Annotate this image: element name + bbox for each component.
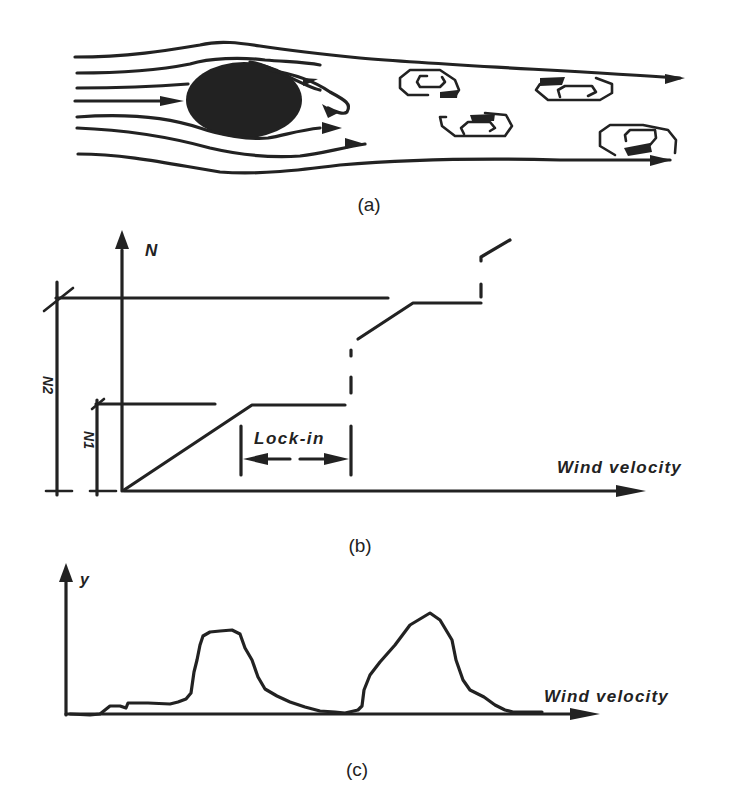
- n-axis-arrow-icon: [115, 230, 129, 249]
- arrow-head-icon: [665, 74, 685, 84]
- vortex-3: [536, 77, 612, 100]
- vortex-2: [440, 113, 512, 136]
- y-axis-label: y: [79, 571, 90, 588]
- lock-in-arrow-left-icon: [243, 453, 268, 465]
- wind-velocity-axis-label: Wind velocity: [557, 458, 682, 477]
- arrow-head-icon: [160, 96, 184, 106]
- y-axis-arrow-icon: [59, 563, 73, 582]
- panel-a-flow-diagram: (a): [75, 42, 685, 215]
- panel-c-response-chart: y Wind velocity (c): [59, 563, 669, 780]
- streamline-3: [77, 84, 188, 88]
- n-axis-label: N: [145, 241, 158, 260]
- panel-c-caption: (c): [346, 759, 368, 780]
- lock-in-label: Lock-in: [254, 429, 325, 448]
- wind-velocity-axis-arrow-icon: [616, 485, 646, 497]
- vortex-1: [400, 70, 459, 98]
- response-curve: [70, 613, 542, 715]
- panel-b-caption: (b): [348, 535, 371, 556]
- frequency-curve-segment-2: [358, 303, 481, 339]
- wind-velocity-axis-label-c: Wind velocity: [544, 687, 669, 706]
- n2-label: N2: [40, 376, 56, 394]
- wind-velocity-axis-arrow-icon-c: [570, 708, 600, 720]
- figure-canvas: (a) N Wind velocity N2 N1: [0, 0, 748, 793]
- frequency-curve-segment-3: [481, 240, 510, 261]
- panel-b-frequency-chart: N Wind velocity N2 N1 Lock-in: [40, 230, 682, 556]
- vortex-4: [600, 125, 676, 156]
- streamline-7: [78, 154, 670, 173]
- n1-label: N1: [81, 431, 97, 449]
- streamline-1: [75, 42, 680, 78]
- arrow-head-icon: [650, 155, 672, 166]
- panel-a-caption: (a): [357, 194, 380, 215]
- streamline-2: [77, 58, 320, 73]
- arrow-head-icon: [322, 122, 342, 134]
- lock-in-arrow-right-icon: [324, 453, 349, 465]
